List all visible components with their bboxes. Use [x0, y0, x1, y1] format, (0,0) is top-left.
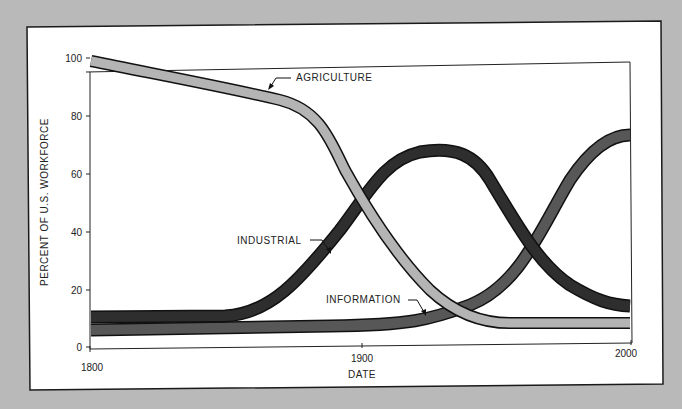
- y-tick-0: 0: [76, 342, 82, 353]
- agriculture-label: AGRICULTURE: [296, 72, 372, 83]
- chart: 0 20 40 60 80 100 1800 1900 2000 DATE PE…: [0, 0, 682, 409]
- y-tick-100: 100: [65, 53, 82, 64]
- x-tick-2000: 2000: [615, 348, 638, 359]
- industrial-label: INDUSTRIAL: [237, 235, 301, 246]
- x-tick-1900: 1900: [351, 353, 374, 364]
- y-axis-label: PERCENT OF U.S. WORKFORCE: [39, 118, 50, 286]
- x-axis-label: DATE: [348, 369, 376, 380]
- y-tick-80: 80: [71, 111, 83, 122]
- y-tick-40: 40: [71, 227, 83, 238]
- x-tick-1800: 1800: [81, 362, 104, 373]
- y-tick-20: 20: [71, 285, 83, 296]
- information-label: INFORMATION: [326, 294, 401, 305]
- y-tick-60: 60: [71, 169, 83, 180]
